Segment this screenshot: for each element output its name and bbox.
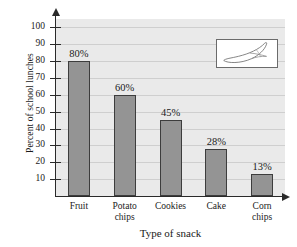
y-axis-tick-mark (50, 162, 61, 163)
bar-chart-figure: Percent of school lunches 10203040506070… (0, 0, 297, 247)
y-axis-tick-label: 30 (19, 140, 45, 150)
y-axis-tick-label: 90 (19, 39, 45, 49)
y-axis-tick-label: 80 (19, 56, 45, 66)
y-axis-arrow-icon (52, 8, 60, 16)
y-axis-tick-label: 70 (19, 73, 45, 83)
bar (68, 61, 90, 196)
gridline (56, 95, 285, 96)
y-axis-tick-mark (50, 27, 61, 28)
y-axis-tick-label: 60 (19, 90, 45, 100)
x-axis-line (55, 196, 283, 197)
bar-value-label: 60% (100, 82, 150, 93)
banana-illustration-inset (216, 39, 278, 68)
y-axis-tick-mark (50, 95, 61, 96)
bar (114, 95, 136, 196)
y-axis-tick-mark (50, 61, 61, 62)
y-axis-tick-mark (50, 44, 61, 45)
bar-value-label: 13% (237, 161, 287, 172)
x-axis-tick-label: Corn chips (234, 201, 290, 222)
y-axis-tick-label: 40 (19, 124, 45, 134)
banana-icon (217, 40, 277, 67)
y-axis-tick-label: 50 (19, 107, 45, 117)
clipped-header-text (30, 0, 280, 3)
gridline (56, 27, 285, 28)
bar (160, 120, 182, 196)
y-axis-tick-mark (50, 78, 61, 79)
y-axis-tick-label: 20 (19, 157, 45, 167)
x-axis-title: Type of snack (56, 227, 285, 239)
x-axis-arrow-icon (282, 193, 290, 201)
y-axis-line (55, 14, 56, 197)
y-axis-tick-mark (50, 129, 61, 130)
y-axis-tick-mark (50, 179, 61, 180)
y-axis-tick-mark (50, 112, 61, 113)
bar-value-label: 28% (191, 136, 241, 147)
bar (205, 149, 227, 196)
y-axis-tick-label: 100 (19, 22, 45, 32)
bar (251, 174, 273, 196)
bar-value-label: 80% (54, 48, 104, 59)
gridline (56, 78, 285, 79)
y-axis-tick-label: 10 (19, 174, 45, 184)
bar-value-label: 45% (146, 107, 196, 118)
y-axis-tick-mark (50, 145, 61, 146)
